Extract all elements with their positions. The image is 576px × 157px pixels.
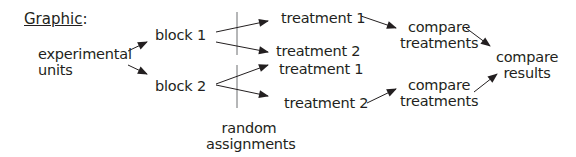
arrow-compare1-results	[466, 28, 490, 46]
arrow-block2-t2	[216, 85, 268, 96]
arrow-block2-t1	[216, 65, 268, 84]
arrow-units-block1	[128, 42, 147, 51]
diagram-connectors	[0, 0, 576, 157]
arrow-compare2-results	[474, 74, 497, 92]
arrow-t2-compare2	[367, 89, 396, 103]
arrow-block1-t1	[216, 21, 268, 32]
arrow-units-block2	[128, 65, 147, 74]
arrow-t1-compare1	[361, 16, 396, 28]
arrow-block1-t2	[216, 42, 268, 52]
